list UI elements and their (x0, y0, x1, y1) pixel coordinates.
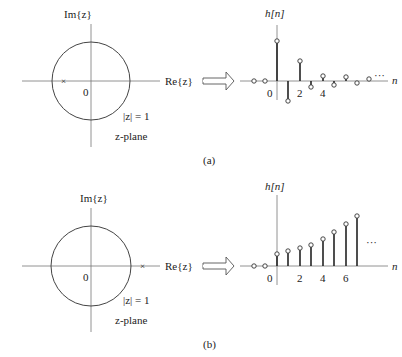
unit-circle-label: |z| = 1 (123, 294, 150, 306)
caption-b: (b) (203, 338, 216, 351)
ylabel: h[n] (265, 180, 285, 192)
origin-label: 0 (83, 271, 89, 283)
xlabel: n (392, 260, 398, 272)
tick-0: 0 (267, 87, 273, 99)
z-plane-b: Im{z} Re{z} 0 |z| = 1 z-plane × (22, 192, 193, 332)
re-label: Re{z} (165, 75, 193, 87)
tick-4: 4 (320, 87, 326, 99)
tick-4: 4 (320, 272, 326, 284)
figure-canvas: Im{z} Re{z} 0 |z| = 1 z-plane × h[n] n 0… (0, 0, 402, 357)
caption-a: (a) (203, 154, 216, 167)
ellipsis: ··· (374, 69, 385, 81)
stem-plot-a: h[n] n 0 2 4 ··· (240, 7, 398, 103)
z-plane-label: z-plane (115, 130, 147, 142)
ellipsis: ··· (366, 236, 377, 248)
xlabel: n (392, 74, 398, 86)
stem-plot-b: h[n] n 0 2 4 6 ··· (240, 180, 398, 285)
ylabel: h[n] (265, 7, 285, 19)
pole-x-icon: × (61, 76, 66, 86)
z-plane-a: Im{z} Re{z} 0 |z| = 1 z-plane × (22, 8, 193, 147)
tick-6: 6 (343, 272, 349, 284)
im-label: Im{z} (64, 8, 92, 20)
pole-x-icon: × (140, 261, 145, 271)
panel-a: Im{z} Re{z} 0 |z| = 1 z-plane × h[n] n 0… (22, 7, 398, 167)
z-plane-label: z-plane (115, 314, 147, 326)
panel-b: Im{z} Re{z} 0 |z| = 1 z-plane × h[n] n 0… (22, 180, 398, 351)
tick-2: 2 (297, 87, 303, 99)
im-label: Im{z} (80, 192, 108, 204)
implication-arrow-b (203, 257, 234, 275)
implication-arrow-a (203, 72, 234, 90)
tick-0: 0 (267, 272, 273, 284)
re-label: Re{z} (165, 260, 193, 272)
tick-2: 2 (297, 272, 303, 284)
unit-circle-label: |z| = 1 (123, 110, 150, 122)
origin-label: 0 (83, 86, 89, 98)
